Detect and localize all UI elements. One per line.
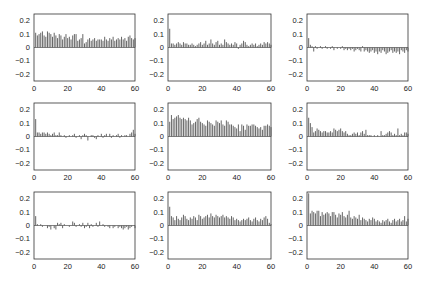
panel-1: 0.20.10−0.1−0.20204060 (15, 14, 139, 93)
y-tick-label: 0 (299, 43, 303, 52)
x-tick-label: 0 (305, 262, 309, 271)
x-tick-label: 0 (32, 173, 36, 182)
x-tick-label: 20 (63, 262, 71, 271)
panel-8: 0.20.10−0.1−0.20204060 (149, 192, 275, 271)
y-tick-label: 0.2 (293, 105, 303, 114)
x-tick-label: 20 (63, 173, 71, 182)
x-tick-label: 20 (336, 84, 344, 93)
x-tick-label: 40 (370, 84, 378, 93)
y-tick-label: 0.2 (154, 105, 164, 114)
y-tick-label: 0 (160, 221, 164, 230)
y-tick-label: −0.2 (149, 159, 164, 168)
x-tick-label: 0 (305, 173, 309, 182)
x-tick-label: 60 (267, 262, 275, 271)
y-tick-label: −0.1 (288, 234, 303, 243)
y-tick-label: 0.2 (293, 16, 303, 25)
x-tick-label: 60 (131, 173, 139, 182)
x-tick-label: 60 (267, 84, 275, 93)
panel-9: 0.20.10−0.1−0.20204060 (288, 192, 412, 271)
y-tick-label: 0 (26, 43, 30, 52)
x-tick-label: 20 (198, 262, 206, 271)
x-tick-label: 0 (32, 84, 36, 93)
y-tick-label: 0.1 (293, 208, 303, 217)
x-tick-label: 40 (232, 84, 240, 93)
autocorrelation-grid: 0.20.10−0.1−0.202040600.20.10−0.1−0.2020… (0, 0, 424, 284)
x-tick-label: 40 (97, 173, 105, 182)
y-tick-label: 0.1 (20, 30, 30, 39)
x-tick-label: 20 (63, 84, 71, 93)
y-tick-label: 0.1 (154, 208, 164, 217)
y-tick-label: −0.1 (15, 56, 30, 65)
y-tick-label: −0.1 (149, 145, 164, 154)
y-tick-label: −0.2 (288, 159, 303, 168)
panel-3: 0.20.10−0.1−0.20204060 (288, 14, 412, 93)
x-tick-label: 60 (404, 84, 412, 93)
y-tick-label: 0.1 (20, 208, 30, 217)
x-tick-label: 20 (198, 173, 206, 182)
y-tick-label: −0.2 (288, 70, 303, 79)
panel-7: 0.20.10−0.1−0.20204060 (15, 192, 139, 271)
x-tick-label: 0 (32, 262, 36, 271)
x-tick-label: 0 (166, 84, 170, 93)
x-tick-label: 40 (232, 173, 240, 182)
x-tick-label: 60 (131, 262, 139, 271)
x-tick-label: 40 (370, 262, 378, 271)
y-tick-label: 0.2 (154, 16, 164, 25)
x-tick-label: 60 (404, 173, 412, 182)
y-tick-label: 0.2 (20, 194, 30, 203)
y-tick-label: 0.2 (20, 16, 30, 25)
panel-4: 0.20.10−0.1−0.20204060 (15, 103, 139, 182)
x-tick-label: 20 (198, 84, 206, 93)
panel-6: 0.20.10−0.1−0.20204060 (288, 103, 412, 182)
x-tick-label: 40 (232, 262, 240, 271)
x-tick-label: 60 (131, 84, 139, 93)
y-tick-label: −0.2 (149, 70, 164, 79)
y-tick-label: 0 (299, 221, 303, 230)
y-tick-label: −0.1 (149, 56, 164, 65)
x-tick-label: 20 (336, 173, 344, 182)
y-tick-label: 0 (26, 221, 30, 230)
y-tick-label: 0.1 (293, 30, 303, 39)
y-tick-label: 0 (160, 43, 164, 52)
y-tick-label: −0.2 (15, 248, 30, 257)
panel-5: 0.20.10−0.1−0.20204060 (149, 103, 275, 182)
y-tick-label: −0.1 (15, 145, 30, 154)
y-tick-label: 0 (26, 132, 30, 141)
x-tick-label: 40 (97, 262, 105, 271)
x-tick-label: 0 (305, 84, 309, 93)
x-tick-label: 60 (267, 173, 275, 182)
y-tick-label: 0.1 (154, 30, 164, 39)
y-tick-label: −0.2 (15, 70, 30, 79)
x-tick-label: 0 (166, 173, 170, 182)
y-tick-label: −0.1 (288, 56, 303, 65)
y-tick-label: 0.1 (154, 119, 164, 128)
y-tick-label: 0.1 (20, 119, 30, 128)
x-tick-label: 40 (97, 84, 105, 93)
y-tick-label: 0.2 (293, 194, 303, 203)
y-tick-label: 0 (299, 132, 303, 141)
y-tick-label: −0.1 (149, 234, 164, 243)
x-tick-label: 60 (404, 262, 412, 271)
y-tick-label: 0.1 (293, 119, 303, 128)
x-tick-label: 0 (166, 262, 170, 271)
y-tick-label: −0.2 (288, 248, 303, 257)
x-tick-label: 40 (370, 173, 378, 182)
y-tick-label: 0.2 (154, 194, 164, 203)
panel-2: 0.20.10−0.1−0.20204060 (149, 14, 275, 93)
y-tick-label: 0 (160, 132, 164, 141)
y-tick-label: 0.2 (20, 105, 30, 114)
x-tick-label: 20 (336, 262, 344, 271)
y-tick-label: −0.2 (149, 248, 164, 257)
y-tick-label: −0.1 (288, 145, 303, 154)
y-tick-label: −0.1 (15, 234, 30, 243)
y-tick-label: −0.2 (15, 159, 30, 168)
